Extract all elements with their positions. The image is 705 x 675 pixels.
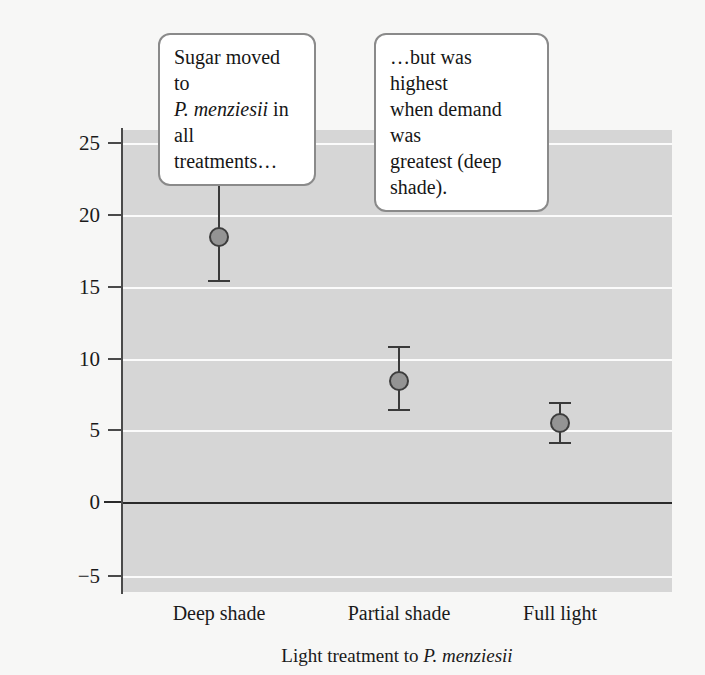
- y-axis-label-25: 25: [52, 133, 100, 154]
- y-axis-tick-25: [108, 142, 121, 144]
- marker-circle[interactable]: [209, 227, 229, 247]
- error-bar-cap-lower: [549, 442, 571, 444]
- y-axis-label-5: 5: [52, 420, 100, 441]
- gridline-5: [122, 430, 672, 432]
- error-bar-cap-lower: [388, 409, 410, 411]
- y-axis-tick-20: [108, 214, 121, 216]
- y-axis-tick-0: [104, 501, 121, 503]
- y-axis-tick-5: [108, 429, 121, 431]
- annotation-callout-left: Sugar moved to P. menziesii in all treat…: [158, 33, 316, 186]
- y-axis-line: [121, 128, 123, 594]
- annotation-callout-right: …but was highest when demand was greates…: [374, 33, 549, 212]
- gridline-15: [122, 287, 672, 289]
- y-axis-tick-minus5: [108, 575, 121, 577]
- x-axis-category-partial-shade: Partial shade: [348, 602, 451, 625]
- callout-left-species: P. menziesii: [174, 98, 268, 120]
- x-axis-title-text: Light treatment to: [281, 645, 423, 666]
- callout-right-line-3: greatest (deep: [390, 148, 533, 174]
- x-axis-category-full-light: Full light: [523, 602, 597, 625]
- y-axis-label-15: 15: [52, 277, 100, 298]
- callout-left-line-3: all treatments…: [174, 122, 300, 174]
- y-axis-label-minus5: −5: [52, 566, 100, 587]
- callout-right-line-1: …but was highest: [390, 44, 533, 96]
- marker-circle[interactable]: [389, 371, 409, 391]
- y-axis-tick-10: [108, 358, 121, 360]
- gridline-10: [122, 359, 672, 361]
- gridline-20: [122, 215, 672, 217]
- error-bar-cap-upper: [549, 402, 571, 404]
- figure-canvas: 25 20 15 10 5 0 −5 Net transfer of carbo…: [0, 0, 705, 675]
- y-axis-label-10: 10: [52, 349, 100, 370]
- callout-left-line-1: Sugar moved to: [174, 44, 300, 96]
- y-axis-label-0: 0: [52, 492, 100, 513]
- callout-right-line-2: when demand was: [390, 96, 533, 148]
- marker-circle[interactable]: [550, 413, 570, 433]
- gridline-minus5: [122, 576, 672, 578]
- y-axis-tick-15: [108, 286, 121, 288]
- callout-left-line-2: P. menziesii in: [174, 96, 300, 122]
- x-axis-title-species: P. menziesii: [423, 645, 512, 666]
- callout-left-line-2-tail: in: [268, 98, 289, 120]
- y-axis-label-20: 20: [52, 205, 100, 226]
- error-bar-cap-lower: [208, 280, 230, 282]
- zero-reference-line: [122, 502, 672, 504]
- callout-right-line-4: shade).: [390, 174, 533, 200]
- x-axis-category-deep-shade: Deep shade: [173, 602, 266, 625]
- x-axis-title: Light treatment to P. menziesii: [122, 645, 672, 667]
- error-bar-cap-upper: [388, 346, 410, 348]
